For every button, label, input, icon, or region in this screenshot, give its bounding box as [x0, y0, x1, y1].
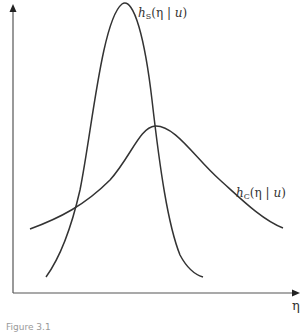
label-h-s: hS(η | u) [138, 6, 187, 21]
figure-caption: Figure 3.1 [6, 322, 51, 332]
curve-h-s [46, 3, 203, 277]
label-h-c-arg: (η | [250, 186, 274, 200]
y-axis-arrow-icon [10, 4, 17, 12]
label-h-c-cond: u [273, 186, 281, 200]
label-h-s-func: h [138, 6, 146, 20]
x-axis-label: η [292, 298, 300, 313]
label-h-c-close: ) [281, 186, 286, 200]
label-h-s-close: ) [183, 6, 188, 20]
label-h-c: hC(η | u) [236, 186, 286, 201]
x-axis-arrow-icon [292, 290, 300, 297]
label-h-c-func: h [236, 186, 244, 200]
label-h-s-arg: (η | [151, 6, 175, 20]
label-h-s-cond: u [175, 6, 183, 20]
